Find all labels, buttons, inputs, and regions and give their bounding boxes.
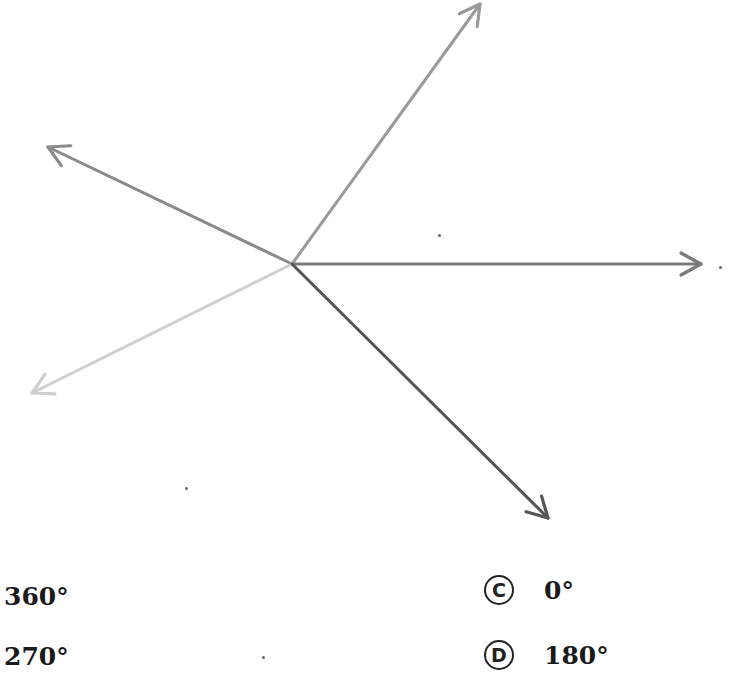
stray-mark	[719, 266, 722, 269]
choice-c-letter-icon: C	[484, 575, 514, 605]
stray-mark	[262, 656, 265, 659]
choice-a-value: 360°	[4, 582, 69, 611]
rays-diagram	[0, 0, 746, 560]
choice-a[interactable]: 360°	[4, 582, 69, 611]
choice-c-value: 0°	[544, 576, 574, 605]
choice-b-value: 270°	[4, 642, 69, 671]
stray-mark	[185, 487, 188, 490]
stray-mark	[438, 234, 441, 237]
ray-up-right	[292, 4, 480, 264]
ray-right	[292, 253, 701, 275]
choice-b[interactable]: 270°	[4, 642, 69, 671]
choice-d-value: 180°	[544, 641, 609, 670]
ray-down-right	[292, 264, 548, 518]
choice-c[interactable]: C 0°	[484, 575, 574, 605]
ray-down-left	[32, 264, 292, 394]
choice-d[interactable]: D 180°	[484, 640, 609, 670]
ray-up-left	[48, 146, 292, 264]
choice-d-letter-icon: D	[484, 640, 514, 670]
